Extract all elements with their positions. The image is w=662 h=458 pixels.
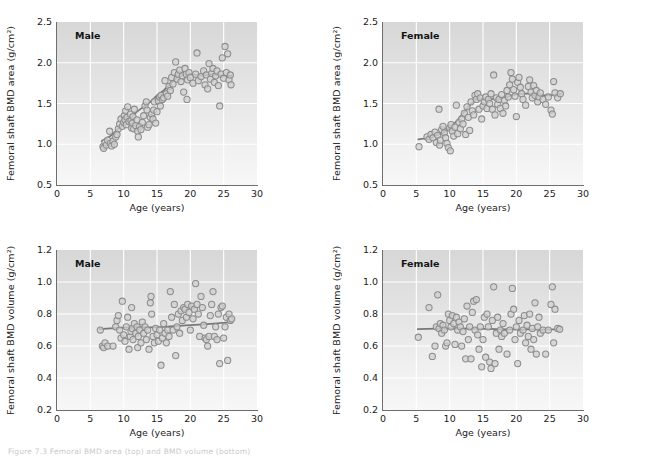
data-point bbox=[435, 292, 441, 298]
data-point bbox=[173, 59, 179, 65]
x-tick-label: 10 bbox=[109, 188, 139, 199]
x-tick-label: 20 bbox=[175, 188, 205, 199]
data-point bbox=[545, 327, 551, 333]
data-point bbox=[222, 43, 228, 49]
data-point bbox=[503, 103, 509, 109]
data-point bbox=[190, 316, 196, 322]
y-tick-label: 2.0 bbox=[23, 57, 52, 68]
x-tick-label: 5 bbox=[401, 188, 431, 199]
data-point bbox=[217, 361, 223, 367]
data-point bbox=[436, 106, 442, 112]
data-point bbox=[464, 303, 470, 309]
data-point bbox=[507, 327, 513, 333]
data-point bbox=[207, 313, 213, 319]
x-tick-label: 25 bbox=[535, 188, 565, 199]
data-point bbox=[461, 316, 467, 322]
data-point bbox=[473, 297, 479, 303]
data-point bbox=[193, 281, 199, 287]
data-point bbox=[516, 317, 522, 323]
data-point bbox=[114, 131, 120, 137]
y-tick-label: 0.8 bbox=[349, 308, 378, 319]
data-point bbox=[148, 293, 154, 299]
data-point bbox=[135, 134, 141, 140]
x-tick-label: 0 bbox=[368, 413, 398, 424]
data-point bbox=[187, 327, 193, 333]
data-point bbox=[125, 314, 131, 320]
data-point bbox=[429, 353, 435, 359]
data-point bbox=[158, 362, 164, 368]
data-point bbox=[476, 346, 482, 352]
data-point bbox=[496, 346, 502, 352]
data-point bbox=[495, 314, 501, 320]
data-point bbox=[178, 78, 184, 84]
y-tick-label: 2.5 bbox=[349, 16, 378, 27]
y-axis-label: Femoral shaft BMD area (g/cm²) bbox=[5, 20, 16, 187]
data-point bbox=[126, 346, 132, 352]
data-point bbox=[131, 106, 137, 112]
data-point bbox=[479, 364, 485, 370]
data-point bbox=[508, 69, 514, 75]
data-point bbox=[221, 335, 227, 341]
data-point bbox=[169, 314, 175, 320]
data-point bbox=[122, 338, 128, 344]
data-point bbox=[167, 289, 173, 295]
x-axis-line bbox=[56, 410, 258, 411]
data-point bbox=[480, 337, 486, 343]
data-point bbox=[440, 123, 446, 129]
data-point bbox=[460, 329, 466, 335]
data-point bbox=[511, 87, 517, 93]
x-tick-label: 15 bbox=[142, 413, 172, 424]
x-tick-label: 0 bbox=[368, 188, 398, 199]
x-tick-label: 10 bbox=[435, 188, 465, 199]
x-tick-label: 30 bbox=[568, 188, 598, 199]
data-point bbox=[229, 316, 235, 322]
data-point bbox=[426, 305, 432, 311]
y-axis-label: Femoral shaft BMD area (g/cm²) bbox=[331, 20, 342, 187]
figure-caption: Figure 7.3 Femoral BMD area (top) and BM… bbox=[8, 447, 250, 456]
data-point bbox=[517, 84, 523, 90]
y-tick-label: 0.8 bbox=[23, 308, 52, 319]
data-point bbox=[491, 284, 497, 290]
y-tick-label: 0.6 bbox=[23, 340, 52, 351]
data-point bbox=[491, 72, 497, 78]
x-tick-label: 5 bbox=[75, 413, 105, 424]
data-point bbox=[219, 303, 225, 309]
data-point bbox=[477, 324, 483, 330]
data-point bbox=[557, 326, 563, 332]
plot-canvas-female-bmd-area bbox=[383, 22, 583, 185]
data-point bbox=[174, 324, 180, 330]
data-point bbox=[441, 327, 447, 333]
data-point bbox=[471, 112, 477, 118]
data-point bbox=[167, 87, 173, 93]
data-point bbox=[225, 51, 231, 57]
data-point bbox=[513, 113, 519, 119]
x-tick-label: 15 bbox=[468, 188, 498, 199]
data-point bbox=[492, 361, 498, 367]
y-tick-label: 0.4 bbox=[23, 372, 52, 383]
y-tick-label: 2.5 bbox=[23, 16, 52, 27]
data-point bbox=[141, 113, 147, 119]
data-point bbox=[209, 301, 215, 307]
group-label-female-bmd-volume: Female bbox=[401, 258, 440, 269]
x-tick-label: 30 bbox=[242, 188, 272, 199]
data-point bbox=[552, 306, 558, 312]
data-point bbox=[171, 301, 177, 307]
data-point bbox=[161, 321, 167, 327]
data-point bbox=[162, 78, 168, 84]
data-point bbox=[551, 340, 557, 346]
data-point bbox=[543, 351, 549, 357]
data-point bbox=[210, 289, 216, 295]
data-point bbox=[146, 122, 152, 128]
data-point bbox=[149, 311, 155, 317]
data-point bbox=[557, 91, 563, 97]
plot-panel-male-bmd-volume: Male0.20.40.60.81.01.2051015202530Age (y… bbox=[0, 230, 332, 458]
data-point bbox=[460, 121, 466, 127]
data-point bbox=[505, 94, 511, 100]
data-point bbox=[201, 322, 207, 328]
x-tick-label: 25 bbox=[209, 413, 239, 424]
data-points bbox=[415, 284, 563, 372]
data-point bbox=[511, 306, 517, 312]
data-point bbox=[198, 293, 204, 299]
data-point bbox=[447, 148, 453, 154]
data-point bbox=[485, 324, 491, 330]
